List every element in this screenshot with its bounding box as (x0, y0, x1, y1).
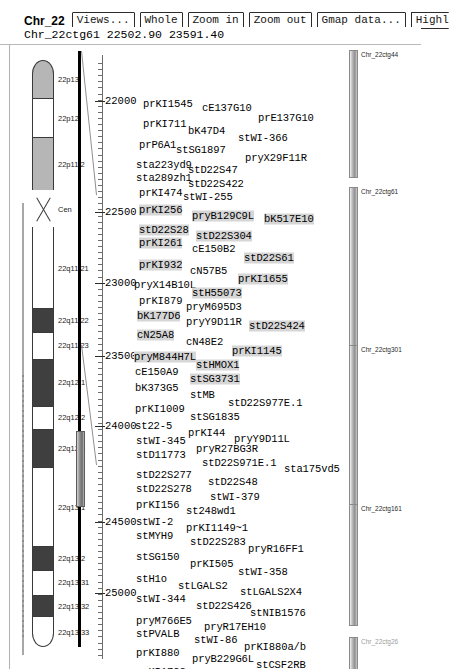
marker-label[interactable]: prKI505 (190, 559, 233, 570)
contig-label[interactable]: Chr_22ctg61 (361, 188, 398, 195)
marker-label[interactable]: stD22S304 (196, 231, 252, 242)
contig-label[interactable]: Chr_22ctg26 (361, 638, 398, 645)
marker-label[interactable]: stH55073 (192, 288, 242, 299)
marker-label[interactable]: cN48E2 (186, 337, 223, 348)
marker-label[interactable]: prKI1145 (232, 346, 282, 357)
marker-label[interactable]: pryM766E5 (136, 616, 192, 627)
marker-label[interactable]: bK47D4 (188, 126, 225, 137)
scale-tick-major (95, 426, 105, 427)
marker-label[interactable]: stD22S61 (244, 253, 294, 264)
marker-label[interactable]: prKI711 (143, 119, 186, 130)
locus-highlight-segment[interactable] (76, 431, 85, 507)
marker-label[interactable]: stCSF2RB (256, 660, 306, 669)
location-bar: Chr_22ctg61 22502.90 23591.40 (0, 27, 421, 44)
marker-label[interactable]: stSG150 (136, 552, 179, 563)
marker-label[interactable]: pryR16FF1 (248, 544, 304, 555)
contig-bar[interactable] (349, 50, 358, 178)
marker-label[interactable]: prKI879 (139, 296, 182, 307)
scale-label: 23500 (105, 350, 137, 362)
contig-bar[interactable] (349, 504, 358, 626)
marker-label[interactable]: stH1o (136, 574, 167, 585)
marker-label[interactable]: prKI44 (188, 428, 225, 439)
marker-label[interactable]: stWI-255 (183, 192, 233, 203)
marker-label[interactable]: stD22S278 (136, 484, 192, 495)
scale-tick-major (95, 212, 105, 213)
marker-label[interactable]: stD22S971E.1 (202, 458, 276, 469)
marker-label[interactable]: cN57B5 (190, 266, 227, 277)
marker-label[interactable]: bK177D6 (137, 311, 180, 322)
marker-label[interactable]: cE150B2 (192, 244, 235, 255)
map-canvas[interactable]: 22p1322p1222p11.2Cen22q11.2122q11.2222q1… (0, 45, 421, 669)
marker-label[interactable]: stSG1897 (176, 145, 226, 156)
marker-label[interactable]: stD22S277 (136, 470, 192, 481)
marker-label[interactable]: st248wd1 (186, 506, 236, 517)
marker-label[interactable]: stMB (190, 390, 215, 401)
marker-label[interactable]: stWI-358 (238, 567, 288, 578)
marker-label[interactable]: st22-5 (135, 421, 172, 432)
marker-label[interactable]: prKI474 (139, 188, 182, 199)
marker-label[interactable]: cE137G10 (202, 103, 252, 114)
marker-label[interactable]: stD22S977E.1 (228, 398, 302, 409)
marker-label[interactable]: prP6A1 (139, 140, 176, 151)
marker-label[interactable]: stD22S422 (188, 179, 244, 190)
marker-label[interactable]: pryM844H7L (134, 352, 196, 363)
marker-label[interactable]: prKI261 (139, 238, 182, 249)
scale-label: 22000 (105, 95, 137, 107)
marker-label[interactable]: prKI256 (139, 205, 182, 216)
marker-label[interactable]: cE150A9 (135, 367, 178, 378)
marker-label[interactable]: stMYH9 (136, 531, 173, 542)
marker-label[interactable]: stD22S28 (139, 225, 189, 236)
marker-label[interactable]: stLGALS2 (178, 581, 228, 592)
marker-label[interactable]: pryX14B10L (134, 280, 196, 291)
marker-label[interactable]: stD11773 (136, 450, 186, 461)
marker-label[interactable]: stD22S47 (188, 165, 238, 176)
marker-label[interactable]: stWI-345 (136, 436, 186, 447)
location-text: Chr_22ctg61 22502.90 23591.40 (24, 28, 224, 41)
marker-label[interactable]: prKI880a/b (244, 642, 306, 653)
marker-label[interactable]: sta175vd5 (284, 464, 340, 475)
marker-label[interactable]: bK373G5 (135, 383, 178, 394)
marker-label[interactable]: stD22S283 (190, 537, 246, 548)
marker-label[interactable]: pryM695D3 (186, 302, 242, 313)
marker-label[interactable]: stNIB1576 (250, 608, 306, 619)
marker-label[interactable]: stD22S426 (196, 601, 252, 612)
contig-label[interactable]: Chr_22ctg161 (361, 505, 402, 512)
contig-label[interactable]: Chr_22ctg44 (361, 51, 398, 58)
marker-label[interactable]: bK517E10 (264, 214, 314, 225)
marker-label[interactable]: prKI880 (136, 648, 179, 659)
marker-label[interactable]: prKI1009 (135, 404, 185, 415)
marker-label[interactable]: prKI156 (136, 500, 179, 511)
marker-label[interactable]: prKI1655 (238, 274, 288, 285)
marker-label[interactable]: pryB229G6L (192, 654, 254, 665)
marker-label[interactable]: prKI1149~1 (186, 523, 248, 534)
scale-label: 23000 (105, 277, 137, 289)
contig-label[interactable]: Chr_22ctg301 (361, 346, 402, 353)
marker-label[interactable]: cN25A8 (137, 330, 174, 341)
marker-label[interactable]: stWI-2 (136, 517, 173, 528)
marker-label[interactable]: stHMOX1 (196, 360, 239, 371)
marker-label[interactable]: stPVALB (136, 629, 179, 640)
contig-bar[interactable] (349, 345, 358, 528)
marker-label[interactable]: stWI-344 (136, 594, 186, 605)
marker-label[interactable]: stSG3731 (190, 374, 240, 385)
marker-label[interactable]: sta223yd9 (136, 160, 192, 171)
marker-label[interactable]: prKI1545 (143, 99, 193, 110)
marker-label[interactable]: pryR17EH10 (204, 622, 266, 633)
marker-label[interactable]: pryR27BG3R (196, 444, 258, 455)
marker-label[interactable]: pryY9D11R (186, 317, 242, 328)
marker-label[interactable]: prKI932 (139, 260, 182, 271)
scale-label: 22500 (105, 206, 137, 218)
marker-label[interactable]: pryX29F11R (245, 153, 307, 164)
marker-label[interactable]: stWI-366 (238, 133, 288, 144)
marker-label[interactable]: stD22S424 (249, 321, 305, 332)
marker-label[interactable]: stWI-379 (210, 492, 260, 503)
marker-label[interactable]: sta289zh1 (136, 173, 192, 184)
marker-label[interactable]: stWI-86 (194, 635, 237, 646)
scale-tick-major (95, 283, 105, 284)
marker-label[interactable]: prE137G10 (258, 113, 314, 124)
marker-label[interactable]: stLGALS2X4 (240, 587, 302, 598)
marker-label[interactable]: stSG1835 (190, 412, 240, 423)
marker-label[interactable]: stD22S48 (208, 477, 258, 488)
marker-label[interactable]: pryB129C9L (192, 211, 254, 222)
contig-bar[interactable] (349, 637, 358, 669)
